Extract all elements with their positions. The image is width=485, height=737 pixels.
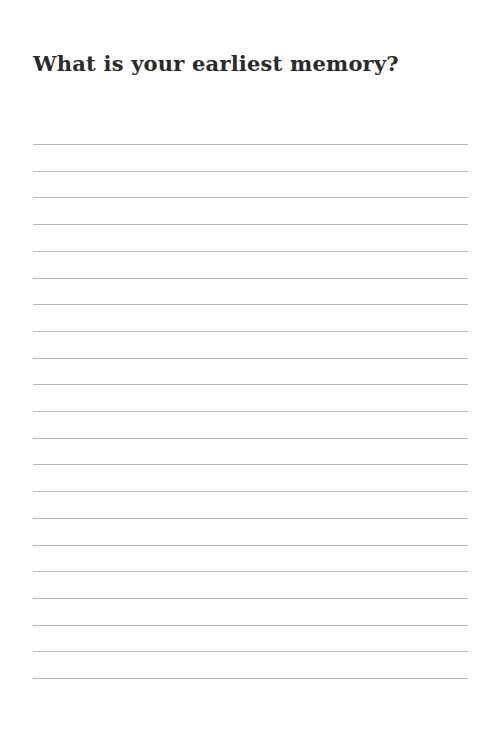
writing-line[interactable]: [33, 384, 468, 385]
writing-line[interactable]: [33, 197, 468, 198]
writing-line[interactable]: [33, 651, 468, 652]
writing-line[interactable]: [33, 571, 468, 572]
writing-line[interactable]: [33, 304, 468, 305]
writing-line[interactable]: [33, 224, 468, 225]
writing-line[interactable]: [33, 171, 468, 172]
writing-line[interactable]: [33, 545, 468, 546]
writing-line[interactable]: [33, 678, 468, 679]
writing-line[interactable]: [33, 464, 468, 465]
writing-line[interactable]: [33, 491, 468, 492]
writing-line[interactable]: [33, 518, 468, 519]
writing-line[interactable]: [33, 438, 468, 439]
writing-line[interactable]: [33, 251, 468, 252]
writing-line[interactable]: [33, 411, 468, 412]
writing-line[interactable]: [33, 625, 468, 626]
journal-page: What is your earliest memory?: [0, 0, 485, 737]
writing-line[interactable]: [33, 278, 468, 279]
writing-line[interactable]: [33, 331, 468, 332]
writing-line[interactable]: [33, 144, 468, 145]
writing-line[interactable]: [33, 358, 468, 359]
prompt-title: What is your earliest memory?: [33, 50, 399, 78]
writing-line[interactable]: [33, 598, 468, 599]
